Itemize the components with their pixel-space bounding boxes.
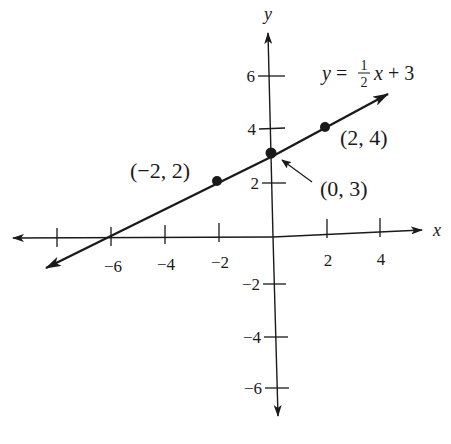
callout-arrow [282,160,312,182]
y-tick-label: −6 [244,379,262,398]
point-label-2-4: (2, 4) [340,125,388,150]
eq-denominator: 2 [361,75,368,90]
y-tick-label: 4 [248,120,257,139]
point-neg2-2 [212,176,222,186]
y-axis [268,33,278,416]
eq-x: x [373,62,383,84]
eq-y: y [320,62,331,85]
x-tick-label: −2 [211,253,229,272]
eq-equals: = [336,62,347,84]
x-tick-label: 4 [377,250,386,269]
eq-rest: + 3 [388,62,414,84]
point-0-3 [266,148,277,159]
x-tick-label: −4 [157,255,176,274]
x-axis-label: x [432,220,441,240]
equation-label: y = 1 2 x + 3 [320,58,414,90]
x-tick-labels: −6 −4 −2 2 4 [104,250,386,276]
x-axis [13,230,422,238]
point-2-4 [320,122,330,132]
coordinate-plane: −6 −4 −2 2 4 6 4 2 −2 −4 −6 y x (−2, 2) … [0,0,451,444]
x-tick-label: 2 [324,251,333,270]
x-tick-label: −6 [104,257,122,276]
y-tick-label: 2 [251,174,260,193]
eq-numerator: 1 [361,58,368,73]
y-tick-label: 6 [247,67,256,86]
y-tick-label: −4 [243,328,262,347]
y-tick-labels: 6 4 2 −2 −4 −6 [242,67,262,398]
point-label-neg2-2: (−2, 2) [130,158,190,183]
y-tick-label: −2 [242,275,260,294]
x-ticks [57,218,380,247]
point-label-0-3: (0, 3) [320,176,368,201]
y-axis-label: y [262,4,272,24]
